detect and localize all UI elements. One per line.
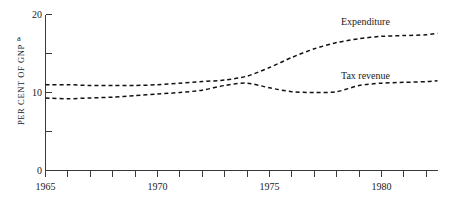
y-tick-label-0: 0 xyxy=(37,165,42,176)
chart-canvas: PER CENT OF GNP a 20 10 0 xyxy=(0,0,456,205)
x-axis-ticks xyxy=(46,171,427,177)
y-axis-title-note: a xyxy=(17,33,21,43)
y-tick-label-10: 10 xyxy=(32,87,42,98)
x-tick-label-1980: 1980 xyxy=(372,181,392,192)
chart-figure: PER CENT OF GNP a 20 10 0 xyxy=(0,0,456,205)
series-line-tax-revenue xyxy=(46,81,438,99)
y-axis-tick-labels: 20 10 0 xyxy=(32,9,42,176)
y-axis-ticks xyxy=(46,15,52,171)
y-axis-title: PER CENT OF GNP a xyxy=(16,33,26,125)
x-tick-label-1975: 1975 xyxy=(260,181,280,192)
series-label-expenditure: Expenditure xyxy=(341,16,390,27)
x-axis-tick-labels: 1965 1970 1975 1980 xyxy=(36,181,392,192)
x-tick-label-1970: 1970 xyxy=(148,181,168,192)
x-tick-label-1965: 1965 xyxy=(36,181,56,192)
y-tick-label-20: 20 xyxy=(32,9,42,20)
axis-lines xyxy=(46,15,438,171)
y-axis-title-text: PER CENT OF GNP xyxy=(16,44,26,125)
series-label-tax-revenue: Tax revenue xyxy=(341,70,391,81)
